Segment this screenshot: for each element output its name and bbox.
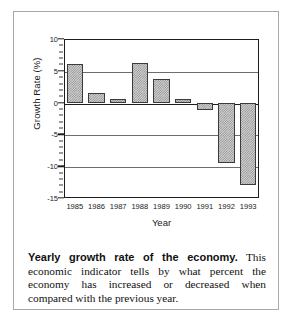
bar-1990[interactable]: [175, 99, 191, 102]
y-tick--2: [59, 115, 63, 116]
chart-region: Growth Rate (%) 1050-5-10-15 19851986198…: [14, 18, 278, 243]
figure-caption: Yearly growth rate of the economy. This …: [28, 251, 266, 305]
y-tick-label--10: -10: [36, 162, 58, 171]
y-tick-4: [59, 77, 63, 78]
bar-1988[interactable]: [132, 63, 148, 102]
bar-slot: [151, 39, 173, 198]
y-tick--12: [59, 178, 63, 179]
y-tick-7: [59, 58, 63, 59]
x-tick-label-1988: 1988: [131, 202, 148, 211]
bars-layer: [64, 39, 259, 198]
x-axis-title: Year: [64, 217, 259, 228]
bar-1991[interactable]: [197, 103, 213, 111]
y-tick--11: [59, 172, 63, 173]
bar-slot: [86, 39, 108, 198]
bar-slot: [194, 39, 216, 198]
x-tick-label-1986: 1986: [88, 202, 105, 211]
y-tick--7: [59, 147, 63, 148]
y-tick--1: [59, 108, 63, 109]
y-axis-title: Growth Rate (%): [31, 46, 42, 142]
x-tick-label-1993: 1993: [240, 202, 257, 211]
bar-slot: [107, 39, 129, 198]
y-tick-3: [59, 83, 63, 84]
bar-1989[interactable]: [153, 79, 169, 103]
y-tick-label-10: 10: [36, 35, 58, 44]
bar-slot: [172, 39, 194, 198]
y-tick-8: [59, 51, 63, 52]
y-tick--3: [59, 121, 63, 122]
y-tick-label-5: 5: [36, 66, 58, 75]
caption-lead: Yearly growth rate of the economy.: [28, 251, 238, 263]
bar-slot: [129, 39, 151, 198]
y-tick-9: [59, 45, 63, 46]
bar-1986[interactable]: [88, 93, 104, 103]
x-tick-label-1992: 1992: [218, 202, 235, 211]
y-tick--8: [59, 153, 63, 154]
bar-1985[interactable]: [67, 64, 83, 102]
y-tick-label--15: -15: [36, 194, 58, 203]
x-tick-label-1989: 1989: [153, 202, 170, 211]
y-tick-label-0: 0: [36, 98, 58, 107]
y-tick--9: [59, 159, 63, 160]
bar-slot: [64, 39, 86, 198]
y-tick--13: [59, 185, 63, 186]
x-tick-label-1990: 1990: [175, 202, 192, 211]
x-tick-label-1987: 1987: [110, 202, 127, 211]
y-tick-2: [59, 89, 63, 90]
x-tick-label-1991: 1991: [196, 202, 213, 211]
bar-1992[interactable]: [218, 103, 234, 163]
y-tick-6: [59, 64, 63, 65]
y-tick-1: [59, 96, 63, 97]
y-tick--14: [59, 191, 63, 192]
y-tick--4: [59, 128, 63, 129]
x-tick-label-1985: 1985: [66, 202, 83, 211]
y-tick--6: [59, 140, 63, 141]
bar-1993[interactable]: [240, 103, 256, 186]
bar-slot: [216, 39, 238, 198]
bar-1987[interactable]: [110, 99, 126, 102]
y-tick-label--5: -5: [36, 130, 58, 139]
figure-frame: Growth Rate (%) 1050-5-10-15 19851986198…: [13, 11, 279, 310]
bar-slot: [237, 39, 259, 198]
